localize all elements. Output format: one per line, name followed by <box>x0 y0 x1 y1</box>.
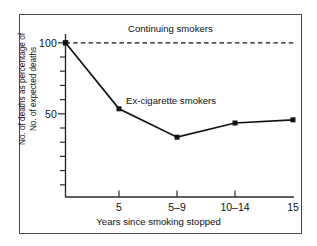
figure-border <box>19 14 302 234</box>
x-tick-label-5: 5 <box>116 201 122 213</box>
annotation-continuing-smokers: Continuing smokers <box>128 23 213 34</box>
y-tick-label-50: 50 <box>45 108 57 120</box>
annotation-ex-cigarette-smokers: Ex-cigarette smokers <box>126 95 216 106</box>
y-axis-title-line-2: No. of expected deaths <box>28 9 39 169</box>
y-axis-title-line-1: No. of deaths as percentage of <box>17 9 28 169</box>
x-tick-label-10-14: 10–14 <box>220 201 249 213</box>
x-axis-title: Years since smoking stopped <box>0 216 317 227</box>
chart-figure: No. of deaths as percentage of No. of ex… <box>0 0 317 246</box>
x-tick-label-15: 15 <box>287 201 299 213</box>
x-tick-label-5-9: 5–9 <box>168 201 186 213</box>
y-axis-title: No. of deaths as percentage of No. of ex… <box>17 9 39 169</box>
y-tick-label-100: 100 <box>39 37 57 49</box>
